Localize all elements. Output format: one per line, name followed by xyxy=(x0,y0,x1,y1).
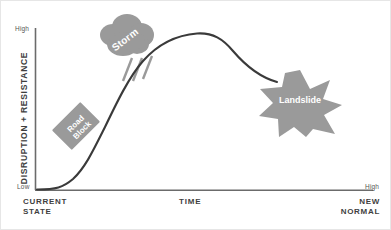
x-axis-high-label: High xyxy=(365,183,379,190)
x-axis-start-line1: CURRENT xyxy=(23,197,67,207)
chart-canvas xyxy=(1,1,391,230)
y-axis-high-label: High xyxy=(15,25,29,32)
x-axis-start-line2: STATE xyxy=(23,207,67,217)
x-axis-end-label: NEW NORMAL xyxy=(341,197,380,217)
x-axis-title: TIME xyxy=(179,197,201,206)
y-axis-title: DISRUPTION + RESISTANCE xyxy=(19,43,29,193)
x-axis-end-line1: NEW xyxy=(341,197,380,207)
y-axis-low-label: Low xyxy=(17,183,30,190)
landslide-label: Landslide xyxy=(270,95,330,105)
change-curve-diagram: DISRUPTION + RESISTANCE High Low High TI… xyxy=(0,0,391,230)
x-axis-start-label: CURRENT STATE xyxy=(23,197,67,217)
x-axis-end-line2: NORMAL xyxy=(341,207,380,217)
